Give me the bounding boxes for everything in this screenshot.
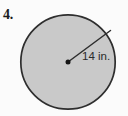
geometry-figure: 4. 14 in. [0, 0, 128, 116]
radius-measurement-label: 14 in. [82, 49, 110, 63]
center-point-dot [66, 60, 71, 65]
